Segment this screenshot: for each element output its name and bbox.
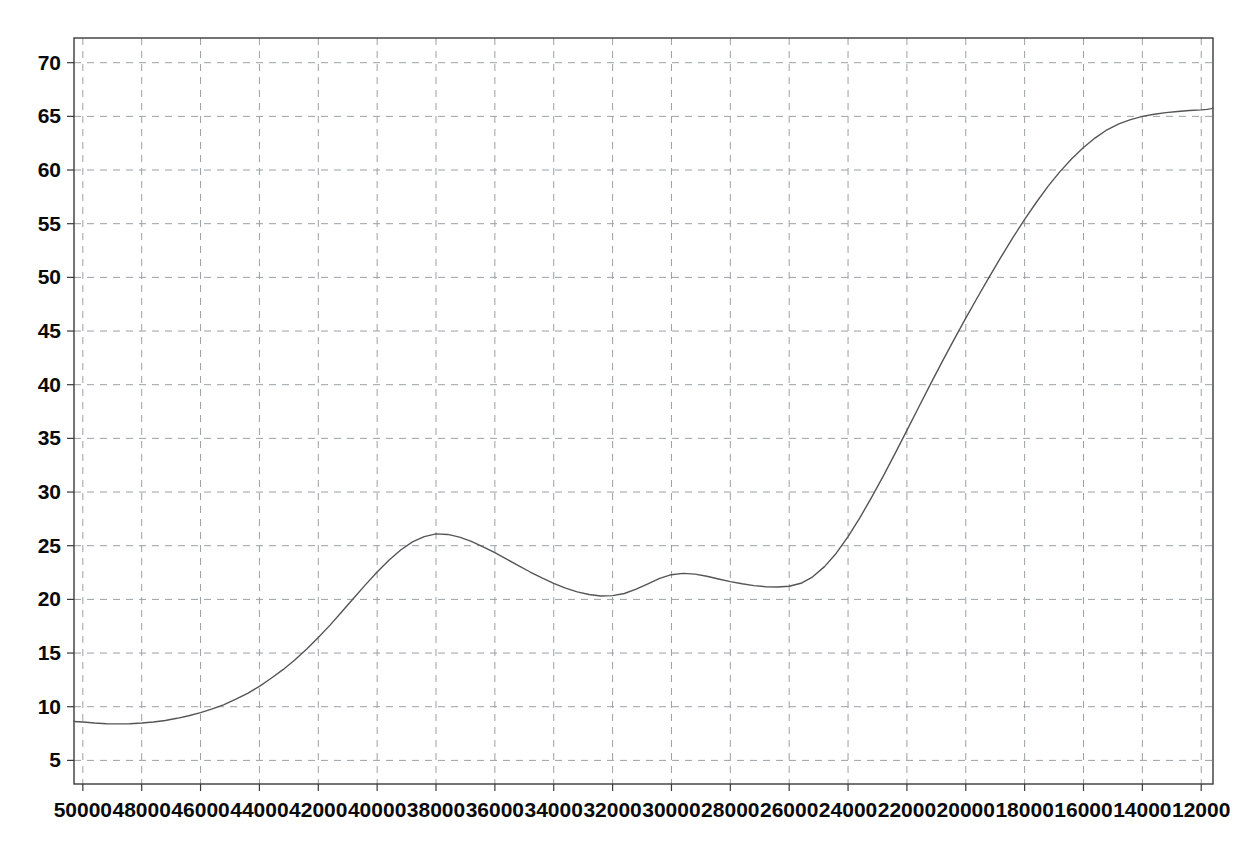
x-tick-label: 18000: [995, 798, 1053, 822]
y-tick-label: 10: [0, 695, 61, 719]
x-tick-label: 44000: [230, 798, 288, 822]
x-tick-label: 30000: [642, 798, 700, 822]
chart-background: [0, 0, 1259, 855]
x-tick-label: 34000: [525, 798, 583, 822]
x-tick-label: 40000: [348, 798, 406, 822]
x-tick-label: 50000: [54, 798, 112, 822]
y-tick-label: 65: [0, 104, 61, 128]
x-tick-label: 42000: [289, 798, 347, 822]
x-tick-label: 14000: [1113, 798, 1171, 822]
plot-area: [0, 0, 1259, 855]
y-tick-label: 55: [0, 212, 61, 236]
y-tick-label: 30: [0, 480, 61, 504]
y-tick-label: 20: [0, 587, 61, 611]
y-tick-label: 70: [0, 51, 61, 75]
x-tick-label: 24000: [819, 798, 877, 822]
y-tick-label: 5: [0, 748, 61, 772]
x-tick-label: 16000: [1054, 798, 1112, 822]
y-tick-label: 35: [0, 426, 61, 450]
y-tick-label: 45: [0, 319, 61, 343]
chart-container: 510152025303540455055606570 500004800046…: [0, 0, 1259, 855]
x-tick-label: 32000: [583, 798, 641, 822]
x-tick-label: 22000: [878, 798, 936, 822]
y-tick-label: 15: [0, 641, 61, 665]
y-tick-label: 25: [0, 534, 61, 558]
y-tick-label: 60: [0, 158, 61, 182]
x-tick-label: 46000: [171, 798, 229, 822]
x-tick-label: 20000: [937, 798, 995, 822]
x-tick-label: 36000: [466, 798, 524, 822]
x-tick-label: 48000: [112, 798, 170, 822]
y-tick-label: 50: [0, 265, 61, 289]
x-tick-label: 38000: [407, 798, 465, 822]
y-tick-label: 40: [0, 373, 61, 397]
x-tick-label: 12000: [1172, 798, 1230, 822]
x-tick-label: 26000: [760, 798, 818, 822]
x-tick-label: 28000: [701, 798, 759, 822]
